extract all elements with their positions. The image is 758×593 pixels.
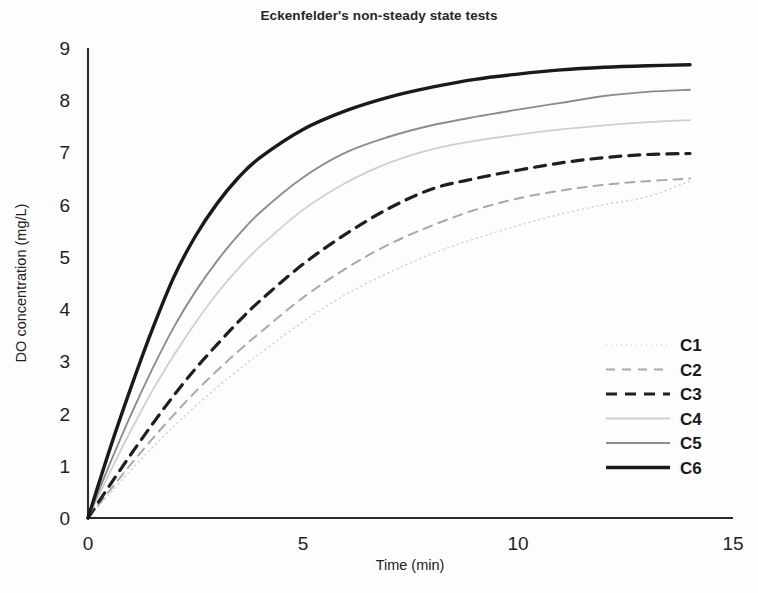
y-axis-tick-labels: 0123456789 bbox=[59, 38, 70, 529]
legend-label-c1[interactable]: C1 bbox=[680, 336, 702, 355]
series-line-c5 bbox=[88, 90, 690, 518]
legend-label-c3[interactable]: C3 bbox=[680, 385, 702, 404]
y-tick-label: 9 bbox=[59, 38, 70, 59]
series-line-c6 bbox=[88, 65, 690, 518]
x-axis-tick-labels: 051015 bbox=[83, 533, 744, 554]
series-line-c3 bbox=[88, 153, 690, 518]
y-tick-label: 6 bbox=[59, 195, 70, 216]
y-tick-label: 7 bbox=[59, 142, 70, 163]
x-tick-label: 15 bbox=[722, 533, 743, 554]
y-tick-label: 0 bbox=[59, 508, 70, 529]
legend-label-c5[interactable]: C5 bbox=[680, 434, 702, 453]
y-tick-label: 5 bbox=[59, 247, 70, 268]
y-tick-label: 3 bbox=[59, 351, 70, 372]
chart-legend[interactable]: C1C2C3C4C5C6 bbox=[606, 336, 702, 478]
y-tick-label: 2 bbox=[59, 404, 70, 425]
x-tick-label: 0 bbox=[83, 533, 94, 554]
axis-lines bbox=[88, 48, 733, 518]
y-tick-label: 1 bbox=[59, 456, 70, 477]
x-axis-title: Time (min) bbox=[376, 557, 445, 573]
plot-area: 0123456789 051015 DO concentration (mg/L… bbox=[0, 0, 758, 593]
y-tick-label: 4 bbox=[59, 299, 70, 320]
y-tick-label: 8 bbox=[59, 90, 70, 111]
chart-figure: Eckenfelder's non-steady state tests 012… bbox=[0, 0, 758, 593]
x-tick-label: 10 bbox=[507, 533, 528, 554]
legend-label-c4[interactable]: C4 bbox=[680, 410, 702, 429]
legend-label-c6[interactable]: C6 bbox=[680, 459, 702, 478]
y-axis-title: DO concentration (mg/L) bbox=[13, 204, 29, 363]
series-lines bbox=[88, 65, 690, 518]
x-tick-label: 5 bbox=[298, 533, 309, 554]
legend-label-c2[interactable]: C2 bbox=[680, 361, 702, 380]
